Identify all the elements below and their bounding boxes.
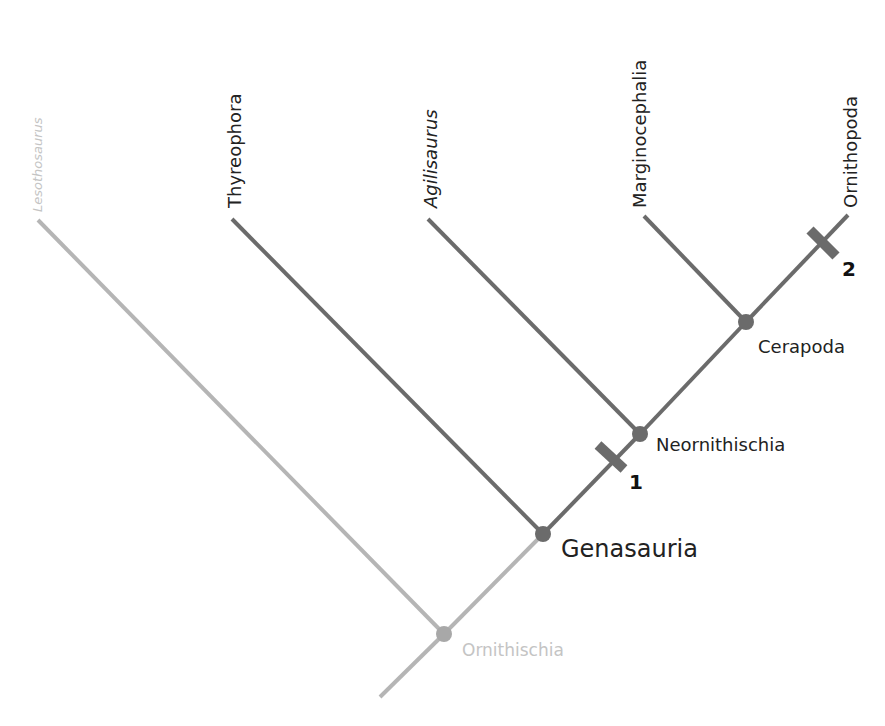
taxon-label-thyreophora: Thyreophora [224, 94, 245, 209]
character-marker-1-label: 1 [629, 470, 643, 494]
branch-ornithopoda [746, 215, 848, 322]
branch-thyreophora [232, 219, 543, 534]
node-label-cerapoda: Cerapoda [758, 336, 845, 357]
node-label-neornithischia: Neornithischia [656, 434, 785, 455]
branch-ornithischia-genasauria [444, 534, 543, 634]
node-neornithischia [632, 426, 648, 442]
node-ornithischia [436, 626, 452, 642]
taxon-label-ornithopoda: Ornithopoda [840, 96, 861, 208]
cladogram: Lesothosaurus Thyreophora Agilisaurus Ma… [0, 0, 885, 726]
taxon-label-lesothosaurus: Lesothosaurus [30, 117, 45, 212]
node-label-genasauria: Genasauria [561, 535, 698, 563]
taxon-label-marginocephalia: Marginocephalia [629, 60, 650, 208]
branch-genasauria-neornithischia [543, 434, 640, 534]
node-cerapoda [738, 314, 754, 330]
branch-neornithischia-cerapoda [640, 322, 746, 434]
branch-root [380, 634, 444, 697]
character-marker-2-label: 2 [842, 257, 856, 281]
node-label-ornithischia: Ornithischia [462, 640, 564, 660]
branch-agilisaurus [428, 219, 640, 434]
branch-marginocephalia [644, 216, 746, 322]
branch-lesothosaurus [38, 220, 444, 634]
node-genasauria [535, 526, 551, 542]
taxon-label-agilisaurus: Agilisaurus [420, 109, 441, 209]
